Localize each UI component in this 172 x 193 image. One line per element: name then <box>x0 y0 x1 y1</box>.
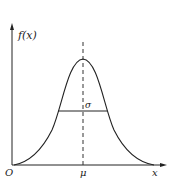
mean-label: μ <box>80 167 87 178</box>
y-axis-arrow-icon <box>10 23 14 30</box>
x-axis-arrow-icon <box>160 163 167 167</box>
origin-label: O <box>5 167 13 178</box>
normal-distribution-diagram: f(x) σ O μ x <box>0 0 172 193</box>
x-axis-label: x <box>152 167 158 178</box>
bell-curve <box>14 59 154 165</box>
y-axis-label: f(x) <box>17 29 37 42</box>
sigma-label: σ <box>85 100 92 110</box>
